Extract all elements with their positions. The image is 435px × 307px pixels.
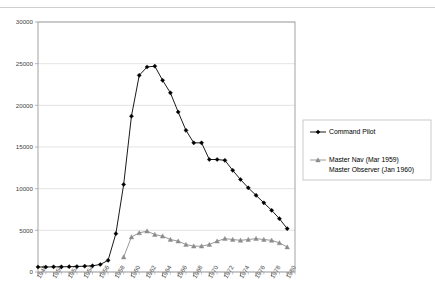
diamond-marker [207,157,211,161]
triangle-marker [184,242,189,246]
x-tick-label: 1964 [160,264,173,280]
diamond-marker [199,141,203,145]
chart-legend: Command PilotMaster Nav (Mar 1959)Master… [303,120,431,180]
y-axis-ticks: 050001000015000200002500030000 [16,18,38,275]
x-tick-label: 1962 [144,264,157,280]
y-tick-label: 20000 [16,102,34,109]
data-series-layer [36,64,290,269]
y-tick-label: 0 [30,268,34,275]
x-tick-label: 1968 [191,264,204,280]
x-tick-label: 1978 [269,264,282,280]
x-tick-label: 1970 [206,264,219,280]
diamond-marker [184,128,188,132]
diamond-marker [106,258,110,262]
diamond-marker [161,78,165,82]
gridlines [38,22,295,272]
diamond-marker [114,232,118,236]
y-tick-label: 30000 [16,18,34,25]
triangle-marker [121,255,126,259]
triangle-marker [285,245,290,249]
y-tick-label: 5000 [19,227,33,234]
series-master-nav-observer [121,229,289,259]
x-tick-label: 1976 [253,264,266,280]
x-tick-label: 1960 [128,264,141,280]
diamond-marker [122,182,126,186]
x-tick-label: 1980 [284,264,297,280]
legend-label-master-nav: Master Nav (Mar 1959) [329,156,399,164]
top-divider [0,7,435,8]
diamond-marker [98,262,102,266]
x-tick-label: 1958 [113,264,126,280]
triangle-marker [129,235,134,239]
triangle-marker [168,237,173,241]
x-tick-label: 1974 [237,264,250,280]
legend-label-command-pilot: Command Pilot [329,128,376,135]
diamond-marker [176,110,180,114]
y-tick-label: 10000 [16,185,34,192]
chart-figure: 050001000015000200002500030000 194819501… [0,0,435,307]
diamond-marker [153,64,157,68]
diamond-marker [192,141,196,145]
diamond-marker [168,91,172,95]
y-tick-label: 25000 [16,60,34,67]
x-tick-label: 1956 [97,264,110,280]
plot-canvas: 050001000015000200002500030000 194819501… [0,0,435,307]
legend-label-master-observer: Master Observer (Jan 1960) [329,166,414,174]
diamond-marker [129,114,133,118]
triangle-marker [207,242,212,246]
cropped-top-text [2,1,122,6]
triangle-marker [145,229,150,233]
y-tick-label: 15000 [16,143,34,150]
triangle-marker [153,232,158,236]
x-tick-label: 1972 [222,264,235,280]
x-tick-label: 1966 [175,264,188,280]
series-command-pilot [36,64,289,269]
diamond-marker [215,157,219,161]
x-axis-ticks: 1948195019521954195619581960196219641966… [35,264,297,280]
